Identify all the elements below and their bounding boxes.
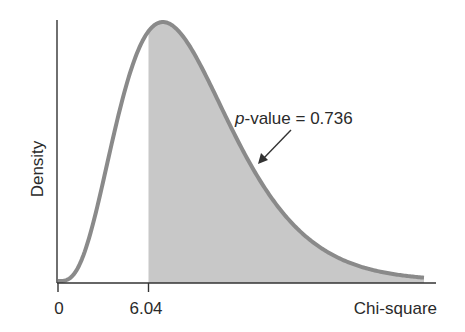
x-tick-label-0: 0 [54,299,63,318]
chi-square-density-chart: 0 6.04 Chi-square Density p-value = 0.73… [0,0,465,332]
p-value-annotation: p-value = 0.736 [234,109,353,128]
p-value-text: -value = 0.736 [244,109,352,128]
p-symbol: p [234,109,244,128]
x-axis-label: Chi-square [354,299,437,318]
x-tick-label-statistic: 6.04 [129,299,162,318]
p-value-shaded-area [149,22,425,283]
annotation-arrow-icon [258,130,291,164]
y-axis-label: Density [28,140,47,197]
